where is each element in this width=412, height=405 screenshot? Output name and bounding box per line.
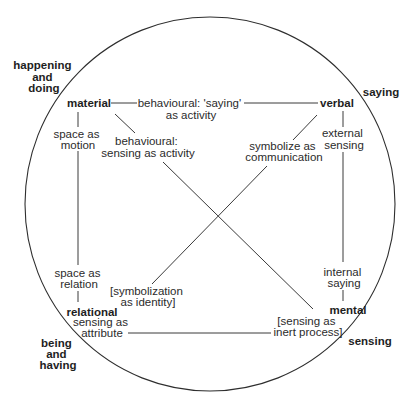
- label-behavioural-sensing: behavioural: sensing as activity: [101, 135, 195, 159]
- label-sensing-as-attribute: sensing as attribute: [73, 316, 131, 339]
- outer-label-being-having: being and having: [39, 337, 76, 371]
- label-sensing-inert-process: [sensing as inert process]: [273, 315, 342, 338]
- label-symbolize-communication: symbolize as communication: [245, 140, 322, 163]
- outer-label-happening-doing: happening and doing: [13, 59, 74, 94]
- edge-material-mental-1: [115, 114, 135, 133]
- label-symbolization-identity: [symbolization as identity]: [110, 285, 186, 308]
- outer-label-saying: saying: [363, 86, 399, 98]
- label-space-as-relation: space as relation: [54, 267, 103, 290]
- label-internal-saying: internal saying: [324, 266, 365, 289]
- label-space-as-motion: space as motion: [53, 128, 102, 151]
- node-verbal: verbal: [320, 97, 354, 109]
- edge-verbal-relational-2: [152, 166, 267, 284]
- node-material: material: [67, 97, 111, 109]
- edge-verbal-relational-1: [293, 115, 317, 140]
- label-external-sensing: external sensing: [322, 127, 366, 151]
- label-behavioural-saying: behavioural: 'saying' as activity: [138, 97, 245, 121]
- outer-label-sensing: sensing: [348, 335, 391, 347]
- process-diagram: happening and doing saying being and hav…: [0, 0, 412, 405]
